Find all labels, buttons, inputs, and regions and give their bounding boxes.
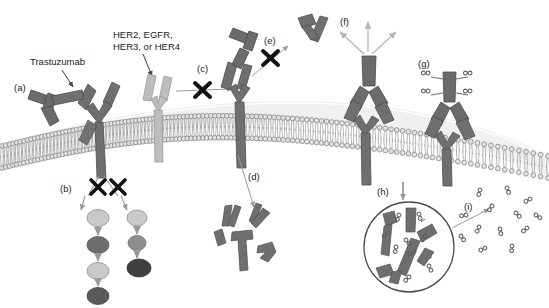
released-drug-molecules xyxy=(458,186,542,253)
panel-g-caption: (g) xyxy=(418,58,430,69)
panel-c-caption: (c) xyxy=(197,63,208,74)
diagram-svg: Trastuzumab (a) (b) xyxy=(0,0,549,308)
panel-e-caption: (e) xyxy=(264,35,276,46)
trastuzumab-label: Trastuzumab xyxy=(30,56,85,67)
panel-f-caption: (f) xyxy=(340,16,349,27)
her-family-label-line2: HER3, or HER4 xyxy=(113,41,180,52)
block-x-b2 xyxy=(111,180,125,194)
shed-ectodomain-fragment xyxy=(298,14,328,42)
panel-h-caption: (h) xyxy=(377,186,389,197)
panel-d-group: (d) xyxy=(214,155,276,271)
panel-a-caption: (a) xyxy=(14,82,26,93)
signal-chain-right xyxy=(127,210,151,277)
signal-chain-left xyxy=(87,210,109,305)
panel-b-caption: (b) xyxy=(60,183,72,194)
panel-i-group: (i) xyxy=(452,186,542,253)
panel-e-group: (e) xyxy=(252,14,328,76)
antibody-center xyxy=(229,28,258,69)
panel-b-group: (b) xyxy=(60,176,151,305)
panel-f-group: (f) xyxy=(340,16,396,185)
her-family-label-line1: HER2, EGFR, xyxy=(113,29,173,40)
degraded-receptor-fragments xyxy=(214,203,276,271)
center-receptor-group xyxy=(221,28,258,168)
trastuzumab-antibody-a xyxy=(28,90,84,126)
figure-canvas: Trastuzumab (a) (b) xyxy=(0,0,549,308)
block-x-e xyxy=(263,51,278,65)
panel-h-group: (h) xyxy=(364,182,454,292)
panel-d-caption: (d) xyxy=(248,171,260,182)
panel-i-caption: (i) xyxy=(464,201,472,212)
